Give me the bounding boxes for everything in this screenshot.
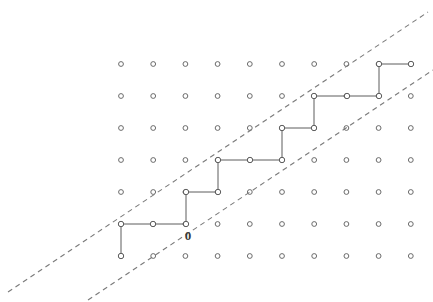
- lattice-dot: [408, 94, 413, 99]
- lattice-dot: [408, 126, 413, 131]
- lattice-dot: [376, 126, 381, 131]
- lattice-dot: [151, 126, 156, 131]
- lattice-dot: [183, 158, 188, 163]
- lattice-path-figure: 0: [0, 0, 433, 302]
- lattice-dot: [151, 62, 156, 67]
- path-vertex: [215, 157, 220, 162]
- lattice-dot: [280, 62, 285, 67]
- lattice-dot: [280, 222, 285, 227]
- lattice-dot: [344, 158, 349, 163]
- lattice-dot: [247, 62, 252, 67]
- lattice-dot: [119, 158, 124, 163]
- lattice-dot: [280, 190, 285, 195]
- lattice-dot: [280, 94, 285, 99]
- path-vertex: [279, 125, 284, 130]
- lattice-dot: [312, 62, 317, 67]
- path-vertex: [279, 157, 284, 162]
- lattice-dot: [408, 190, 413, 195]
- path-vertex: [344, 93, 349, 98]
- lattice-dot: [247, 254, 252, 259]
- path-vertex: [118, 221, 123, 226]
- lattice-dot: [408, 158, 413, 163]
- lattice-dot: [183, 254, 188, 259]
- lattice-dot: [312, 222, 317, 227]
- path-vertex: [311, 125, 316, 130]
- path-vertex: [118, 253, 123, 258]
- lattice-dot: [119, 190, 124, 195]
- path-vertex: [150, 221, 155, 226]
- lattice-dot: [312, 254, 317, 259]
- lattice-dot: [119, 126, 124, 131]
- lattice-dot: [376, 222, 381, 227]
- lattice-dot: [183, 94, 188, 99]
- lattice-dot: [247, 94, 252, 99]
- path-vertex: [408, 61, 413, 66]
- lattice-path-canvas: 0: [0, 0, 433, 302]
- lattice-dot: [119, 94, 124, 99]
- lattice-dot: [215, 94, 220, 99]
- path-vertex: [311, 93, 316, 98]
- lattice-dot: [151, 158, 156, 163]
- lattice-dot: [344, 222, 349, 227]
- lattice-dot: [183, 62, 188, 67]
- lattice-dot: [280, 254, 285, 259]
- lattice-dot: [376, 190, 381, 195]
- lattice-dot: [376, 158, 381, 163]
- lattice-dot: [215, 222, 220, 227]
- lattice-dot: [344, 254, 349, 259]
- lattice-dot: [376, 254, 381, 259]
- origin-label: 0: [185, 228, 192, 243]
- lattice-dot: [183, 126, 188, 131]
- lattice-dot: [312, 190, 317, 195]
- lattice-dot: [408, 254, 413, 259]
- path-vertex: [247, 157, 252, 162]
- lattice-dot: [215, 254, 220, 259]
- path-vertex: [183, 221, 188, 226]
- lattice-dot: [344, 190, 349, 195]
- lattice-dot: [151, 190, 156, 195]
- path-vertex: [215, 189, 220, 194]
- path-vertex: [376, 61, 381, 66]
- lattice-dot: [408, 222, 413, 227]
- lattice-dot: [312, 158, 317, 163]
- path-vertex: [376, 93, 381, 98]
- lattice-dot: [151, 94, 156, 99]
- path-vertex: [183, 189, 188, 194]
- lattice-dot: [215, 126, 220, 131]
- lattice-dot: [247, 222, 252, 227]
- lattice-dot: [215, 62, 220, 67]
- lattice-dot: [119, 62, 124, 67]
